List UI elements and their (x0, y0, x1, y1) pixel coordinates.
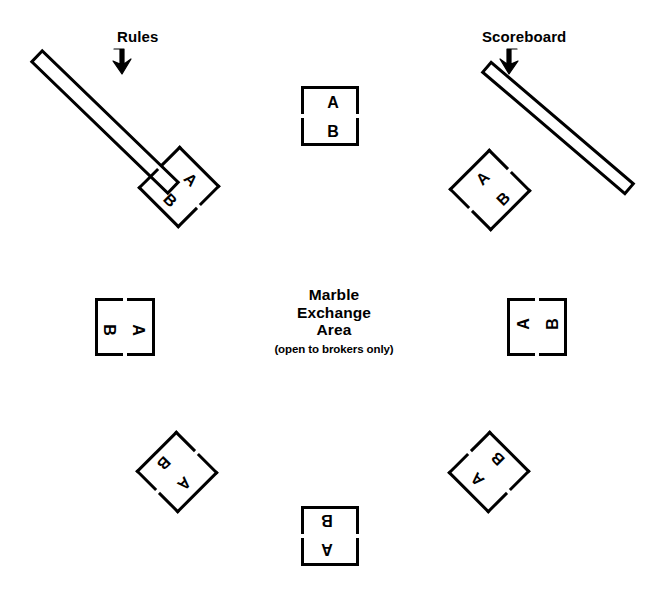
seat-a[interactable]: A (301, 86, 359, 114)
table-left-center[interactable]: A B (95, 298, 155, 356)
down-right-arrow-icon (110, 47, 136, 77)
scoreboard-label: Scoreboard (482, 28, 566, 45)
center-line-3: Area (234, 321, 434, 339)
seat-label-a: A (124, 301, 152, 359)
seat-label-b: B (304, 118, 362, 146)
seat-label-b: B (95, 301, 123, 359)
center-note: (open to brokers only) (234, 341, 434, 357)
seat-b[interactable]: B (301, 506, 359, 534)
table-top-right[interactable]: A B (448, 148, 531, 231)
center-line-1: Marble (234, 286, 434, 304)
seat-label-a: A (298, 535, 356, 563)
rules-label: Rules (117, 28, 158, 45)
seat-label-a: A (304, 89, 362, 117)
table-bottom-right[interactable]: A B (447, 430, 530, 513)
table-bottom-left[interactable]: A B (135, 430, 218, 513)
seat-b[interactable]: B (301, 118, 359, 146)
seat-b[interactable]: B (539, 298, 567, 356)
center-area-caption: Marble Exchange Area (open to brokers on… (234, 286, 434, 357)
table-right-center[interactable]: A B (507, 298, 567, 356)
marble-exchange-diagram: Rules Scoreboard A B A B A (0, 0, 668, 602)
seat-b[interactable]: B (95, 298, 123, 356)
seat-a[interactable]: A (127, 298, 155, 356)
seat-a[interactable]: A (301, 538, 359, 566)
seat-label-a: A (510, 295, 538, 353)
seat-label-b: B (539, 295, 567, 353)
seat-a[interactable]: A (507, 298, 535, 356)
seat-label-b: B (298, 506, 356, 534)
table-top-center[interactable]: A B (301, 86, 359, 146)
center-line-2: Exchange (234, 304, 434, 322)
table-bottom-center[interactable]: A B (301, 506, 359, 566)
